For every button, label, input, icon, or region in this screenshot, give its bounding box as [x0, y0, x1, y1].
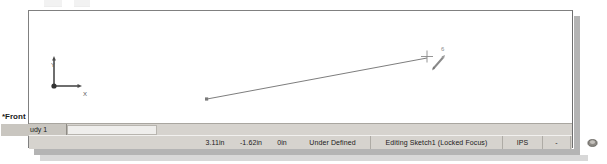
crosshair-icon: [421, 51, 433, 63]
status-coordinate-x: 3.11in: [197, 136, 233, 149]
origin-triad-icon: [51, 56, 82, 89]
status-bar: 3.11in -1.62in 0in Under Defined Editing…: [29, 135, 572, 149]
toolbar-ghost-item-2: [74, 0, 90, 7]
toolbar-ghost-item-1: [44, 0, 62, 7]
graphics-area[interactable]: Y X 6: [29, 11, 572, 111]
origin-y-axis-label: Y: [51, 62, 55, 68]
status-coordinate-y: -1.62in: [233, 136, 269, 149]
view-orientation-label: *Front: [29, 111, 572, 123]
origin-x-axis-label: X: [83, 91, 87, 97]
status-sketch-state: Under Defined: [295, 136, 371, 149]
window-shadow-right: [574, 16, 580, 152]
status-coordinate-z: 0in: [269, 136, 295, 149]
tab-bar-empty-area[interactable]: [67, 125, 157, 135]
status-mini-indicator[interactable]: -: [543, 136, 571, 149]
view-orientation-text: *Front: [2, 112, 26, 121]
status-units-selector[interactable]: IPS: [503, 136, 543, 149]
pencil-icon: [432, 55, 445, 71]
status-edit-mode: Editing Sketch1 (Locked Focus): [371, 136, 503, 149]
page-shadow-bottom: [40, 155, 588, 161]
client-frame: Y X 6 *Front udy 1 3.11in -1.62in 0in Un…: [28, 10, 573, 148]
tab-study-1-label: udy 1: [30, 126, 47, 133]
sketch-canvas[interactable]: [29, 11, 572, 111]
sketch-line: [205, 58, 427, 101]
graphics-indicator-icon: [587, 138, 598, 147]
status-spacer: [29, 136, 197, 149]
cursor-badge-label: 6: [441, 46, 444, 52]
solidworks-sketch-window: Y X 6 *Front udy 1 3.11in -1.62in 0in Un…: [0, 0, 607, 164]
status-graphics-indicator[interactable]: [577, 136, 607, 149]
